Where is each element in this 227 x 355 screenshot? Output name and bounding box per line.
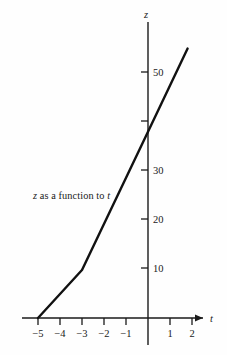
- caption-var-t: t: [107, 190, 110, 201]
- x-tick-label-minus2: −2: [98, 328, 109, 339]
- y-tick-label-50: 50: [153, 67, 164, 78]
- chart-plot-area: 10 20 30 50 z −5 −4 −3 −2 −1 1 2 t: [0, 0, 227, 355]
- x-tick-label-minus3: −3: [76, 328, 87, 339]
- x-tick-label-2: 2: [189, 328, 194, 339]
- x-axis-arrow-icon: [195, 314, 203, 321]
- x-tick-label-minus4: −4: [54, 328, 66, 339]
- y-axis-name: z: [143, 9, 148, 20]
- chart-figure: 10 20 30 50 z −5 −4 −3 −2 −1 1 2 t z as …: [0, 0, 227, 355]
- chart-caption: z as a function to t: [33, 190, 110, 201]
- x-tick-label-minus5: −5: [32, 328, 43, 339]
- x-tick-label-minus1: −1: [120, 328, 131, 339]
- caption-middle-text: as a function to: [37, 190, 107, 201]
- x-axis-name: t: [210, 313, 214, 324]
- x-tick-label-1: 1: [167, 328, 172, 339]
- data-series-line: [38, 49, 188, 319]
- y-tick-label-30: 30: [153, 165, 164, 176]
- y-tick-label-10: 10: [153, 263, 164, 274]
- y-tick-label-20: 20: [153, 214, 164, 225]
